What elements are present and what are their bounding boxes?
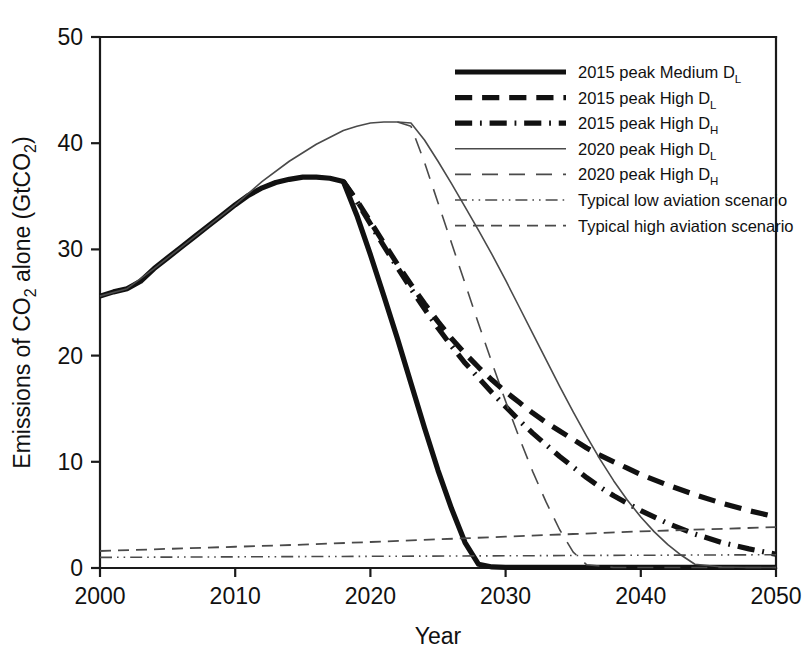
x-tick-label: 2050 xyxy=(750,583,801,609)
y-tick-label: 10 xyxy=(57,449,83,475)
emissions-line-chart: 01020304050200020102020203020402050 2015… xyxy=(0,0,811,653)
y-tick-label: 40 xyxy=(57,130,83,156)
y-tick-label: 20 xyxy=(57,343,83,369)
y-tick-label: 50 xyxy=(57,24,83,50)
figure-container: 01020304050200020102020203020402050 2015… xyxy=(0,0,811,653)
x-tick-label: 2010 xyxy=(210,583,261,609)
y-tick-label: 30 xyxy=(57,236,83,262)
x-tick-label: 2040 xyxy=(615,583,666,609)
legend-label-5: Typical low aviation scenario xyxy=(578,191,787,209)
x-tick-label: 2030 xyxy=(480,583,531,609)
x-tick-label: 2020 xyxy=(345,583,396,609)
legend-label-6: Typical high aviation scenario xyxy=(578,217,794,235)
x-axis-title: Year xyxy=(415,623,462,649)
y-tick-label: 0 xyxy=(70,555,83,581)
x-tick-label: 2000 xyxy=(74,583,125,609)
y-axis-title: Emissions of CO2 alone (GtCO2) xyxy=(9,136,39,468)
